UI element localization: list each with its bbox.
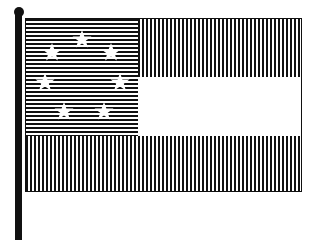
flagpole — [15, 14, 22, 240]
star-icon — [101, 42, 121, 62]
star-icon — [54, 101, 74, 121]
star-icon — [72, 29, 92, 49]
star-icon — [94, 101, 114, 121]
flag — [25, 18, 302, 192]
star-icon — [35, 72, 55, 92]
bottom-red-stripe — [26, 136, 301, 191]
star-icon — [42, 42, 62, 62]
star-icon — [110, 72, 130, 92]
blue-canton — [26, 19, 138, 136]
